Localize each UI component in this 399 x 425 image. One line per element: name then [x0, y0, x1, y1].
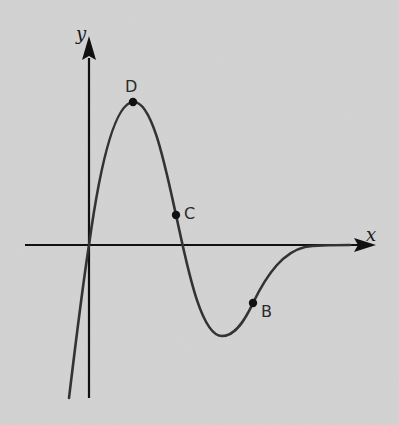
- background: [0, 0, 399, 425]
- point-c-label: C: [184, 204, 195, 223]
- point-d-label: D: [125, 77, 137, 96]
- y-axis-label: y: [75, 23, 87, 44]
- function-graph: x y D C B: [0, 0, 399, 425]
- point-c-marker: [172, 211, 180, 219]
- x-axis-label: x: [366, 224, 376, 245]
- point-b-marker: [249, 299, 257, 307]
- point-b-label: B: [261, 302, 272, 321]
- diagram-canvas: x y D C B: [0, 0, 399, 425]
- point-d-marker: [129, 98, 137, 106]
